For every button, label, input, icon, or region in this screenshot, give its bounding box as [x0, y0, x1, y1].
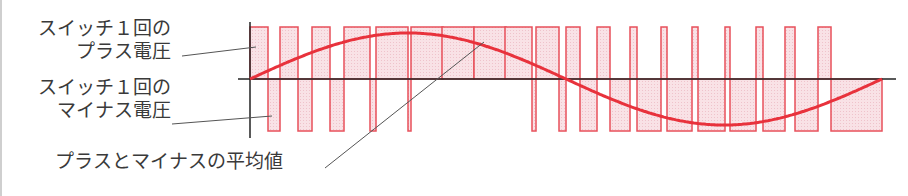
negative-pulse — [330, 79, 344, 131]
plus-voltage-leader-line — [182, 47, 256, 56]
negative-pulse — [637, 79, 661, 131]
positive-pulse — [692, 27, 698, 79]
positive-pulse — [597, 27, 610, 79]
minus-voltage-leader-line — [172, 116, 272, 124]
positive-pulse — [566, 27, 580, 79]
positive-pulse — [280, 27, 298, 79]
positive-pulse — [785, 27, 795, 79]
negative-pulse — [559, 79, 566, 131]
negative-pulse — [268, 79, 280, 131]
positive-pulse — [474, 27, 506, 79]
positive-pulse — [630, 27, 637, 79]
negative-pulse — [408, 79, 411, 131]
positive-pulse — [818, 27, 831, 79]
positive-pulse — [661, 27, 667, 79]
positive-pulse — [344, 27, 370, 79]
pwm-diagram — [0, 0, 908, 196]
negative-pulse — [532, 79, 536, 131]
positive-pulse — [756, 27, 763, 79]
negative-pulse — [298, 79, 312, 131]
negative-pulse — [831, 79, 882, 131]
negative-pulse — [763, 79, 785, 131]
negative-pulse — [795, 79, 818, 131]
positive-pulse — [725, 27, 730, 79]
negative-pulse — [370, 79, 376, 131]
